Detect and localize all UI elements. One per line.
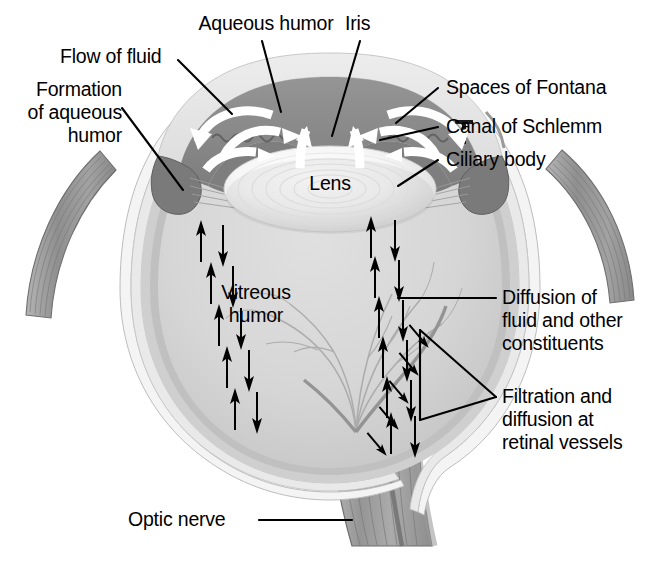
extraocular-muscle-right — [546, 150, 634, 303]
label-canal-of-schlemm: Canal of Schlemm — [446, 115, 602, 138]
label-iris: Iris — [345, 12, 370, 35]
label-optic-nerve: Optic nerve — [128, 508, 226, 531]
label-diffusion-line1: Diffusion of — [502, 286, 597, 309]
eye-diagram-figure: Aqueous humor Iris Flow of fluid Formati… — [0, 0, 661, 567]
label-vitreous-line2: humor — [196, 304, 316, 327]
label-formation-line2: of aqueous — [0, 101, 122, 124]
label-aqueous-humor: Aqueous humor — [196, 12, 336, 35]
label-flow-of-fluid: Flow of fluid — [60, 45, 161, 68]
label-filtration-line3: retinal vessels — [502, 431, 623, 454]
label-ciliary-body: Ciliary body — [446, 148, 545, 171]
label-formation-line1: Formation — [0, 78, 122, 101]
label-filtration-line2: diffusion at — [502, 408, 594, 431]
label-diffusion-line3: constituents — [502, 332, 604, 355]
extraocular-muscle-left — [26, 151, 116, 318]
label-lens: Lens — [278, 172, 382, 195]
label-diffusion-line2: fluid and other — [502, 309, 623, 332]
label-formation-line3: humor — [0, 124, 122, 147]
label-filtration-line1: Filtration and — [502, 385, 612, 408]
label-spaces-of-fontana: Spaces of Fontana — [446, 76, 606, 99]
label-vitreous-line1: Vitreous — [196, 281, 316, 304]
